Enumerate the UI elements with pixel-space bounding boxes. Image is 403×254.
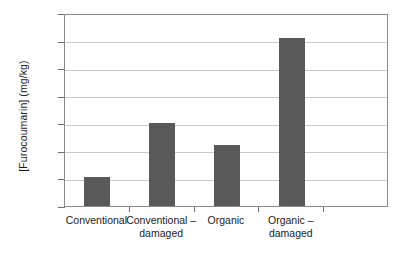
gridline bbox=[65, 125, 387, 126]
bar bbox=[149, 123, 175, 206]
y-tick-mark bbox=[58, 124, 64, 125]
y-tick-mark bbox=[58, 14, 64, 15]
bar-chart: [Furocoumarin] (mg/kg) 02040608010012014… bbox=[0, 0, 403, 254]
y-tick-mark bbox=[58, 69, 64, 70]
x-tick-mark bbox=[258, 207, 259, 212]
bar bbox=[279, 38, 305, 206]
x-category-label: Organic – damaged bbox=[243, 214, 338, 240]
bar bbox=[84, 177, 110, 206]
gridline bbox=[65, 97, 387, 98]
y-tick-mark bbox=[58, 152, 64, 153]
x-tick-mark bbox=[323, 207, 324, 212]
plot-area bbox=[64, 14, 388, 207]
y-tick-mark bbox=[58, 97, 64, 98]
gridline bbox=[65, 70, 387, 71]
y-axis-title: [Furocoumarin] (mg/kg) bbox=[12, 20, 34, 213]
gridline bbox=[65, 42, 387, 43]
y-tick-mark bbox=[58, 179, 64, 180]
x-tick-mark bbox=[194, 207, 195, 212]
y-tick-mark bbox=[58, 207, 64, 208]
x-tick-mark bbox=[129, 207, 130, 212]
y-tick-mark bbox=[58, 42, 64, 43]
bar bbox=[214, 145, 240, 206]
